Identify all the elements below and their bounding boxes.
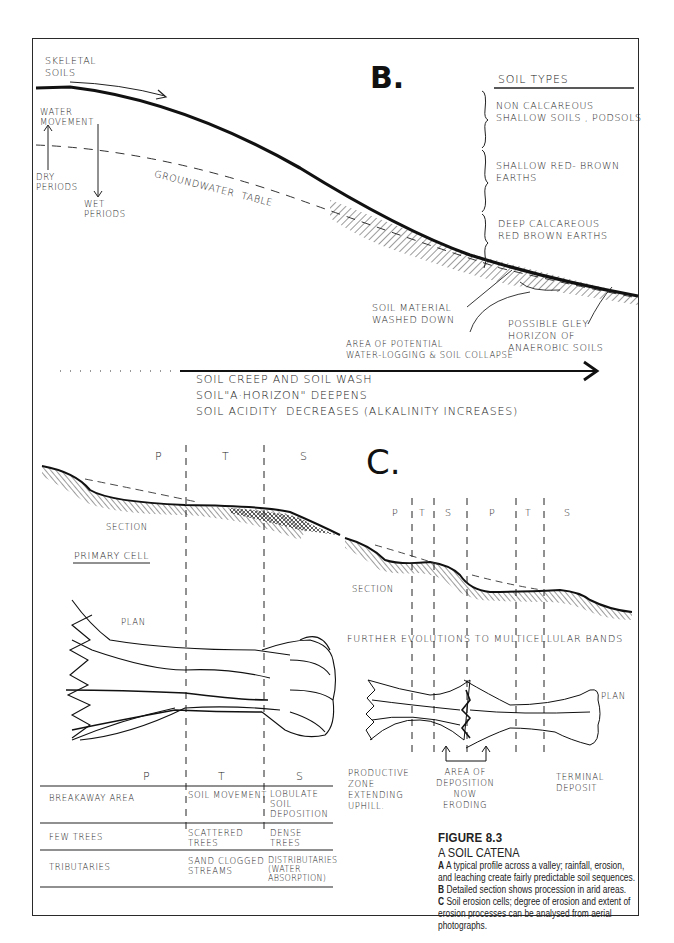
- zone-label-t: T: [525, 507, 531, 519]
- zone-label-t: T: [222, 450, 230, 463]
- caption-b: B Detailed section shows procession in a…: [438, 884, 638, 896]
- table-cell: FEW TREES: [49, 831, 103, 843]
- table-cell: BREAKAWAY AREA: [49, 792, 135, 804]
- caption-key: B: [438, 884, 444, 895]
- caption-key: A: [438, 860, 444, 871]
- water-movement-label: WATER MOVEMENT: [40, 107, 94, 127]
- skeletal-soils-label: SKELETAL SOILS: [45, 55, 96, 79]
- zone-label-p: P: [489, 507, 495, 519]
- plan-label: PLAN: [601, 690, 626, 702]
- zone-label-t: T: [419, 507, 425, 519]
- caption-text: A typical profile across a valley; rainf…: [438, 860, 635, 883]
- table-cell: TRIBUTARIES: [49, 861, 111, 873]
- primary-cell-plan: [66, 600, 336, 740]
- multicellular-section: [345, 538, 632, 620]
- deposition-area-label: AREA OF DEPOSITION NOW ERODING: [436, 767, 494, 811]
- section-label: SECTION: [352, 583, 394, 595]
- table-header-p: P: [143, 770, 150, 783]
- caption-key: C: [438, 896, 444, 907]
- zone-label-p: P: [392, 507, 398, 519]
- table-cell: SOIL MOVEMENT: [188, 789, 267, 801]
- zone-dividers-multi: [412, 498, 544, 752]
- soil-type-item: NON CALCAREOUS SHALLOW SOILS , PODSOLS: [496, 100, 642, 124]
- panel-c-label: C.: [366, 442, 401, 482]
- trend-line-1: SOIL CREEP AND SOIL WASH: [196, 373, 372, 386]
- soil-material-label: SOIL MATERIAL WASHED DOWN: [372, 302, 455, 326]
- figure-caption: FIGURE 8.3 A SOIL CATENA A A typical pro…: [438, 830, 638, 932]
- table-cell: LOBULATE SOIL DEPOSITION: [270, 789, 328, 819]
- section-label: SECTION: [106, 521, 148, 533]
- soil-type-item: DEEP CALCAREOUS RED BROWN EARTHS: [498, 218, 608, 242]
- caption-a: A A typical profile across a valley; rai…: [438, 860, 638, 884]
- zone-label-p: P: [155, 450, 162, 463]
- caption-text: Detailed section shows procession in ari…: [446, 884, 626, 895]
- zone-label-s: S: [564, 507, 571, 519]
- multicellular-plan: [366, 680, 600, 761]
- plan-label: PLAN: [121, 616, 146, 628]
- zone-label-s: S: [300, 450, 308, 463]
- panel-b-label: B.: [370, 60, 404, 95]
- waterlogging-label: AREA OF POTENTIAL WATER-LOGGING & SOIL C…: [346, 339, 514, 361]
- caption-text: Soil erosion cells; degree of erosion an…: [438, 896, 630, 931]
- soil-types-heading: SOIL TYPES: [498, 73, 569, 86]
- trend-line-2: SOIL"A·HORIZON" DEEPENS: [196, 389, 367, 402]
- soil-type-item: SHALLOW RED- BROWN EARTHS: [496, 160, 620, 184]
- table-cell: DISTRIBUTARIES (WATER ABSORPTION): [268, 856, 338, 883]
- caption-c: C Soil erosion cells; degree of erosion …: [438, 896, 638, 932]
- dry-periods-label: DRY PERIODS: [36, 172, 78, 192]
- multicellular-title: FURTHER EVOLUTIONS TO MULTICELLULAR BAND…: [347, 633, 623, 645]
- terminal-deposit-label: TERMINAL DEPOSIT: [556, 772, 604, 794]
- productive-zone-label: PRODUCTIVE ZONE EXTENDING UPHILL.: [348, 768, 409, 812]
- gley-horizon-label: POSSIBLE GLEY HORIZON OF ANAEROBIC SOILS: [508, 318, 604, 354]
- table-header-s: S: [296, 770, 304, 783]
- wet-periods-label: WET PERIODS: [84, 199, 126, 219]
- table-header-t: T: [218, 770, 226, 783]
- primary-cell-section: [42, 466, 340, 563]
- trend-line-3: SOIL ACIDITY DECREASES (ALKALINITY INCRE…: [196, 405, 518, 418]
- zone-label-s: S: [445, 507, 452, 519]
- table-cell: SCATTERED TREES: [188, 828, 243, 848]
- table-cell: SAND CLOGGED STREAMS: [188, 856, 264, 876]
- figure-title: A SOIL CATENA: [438, 845, 608, 860]
- primary-cell-title: PRIMARY CELL: [74, 550, 149, 562]
- table-cell: DENSE TREES: [270, 828, 302, 848]
- figure-number: FIGURE 8.3: [438, 830, 608, 845]
